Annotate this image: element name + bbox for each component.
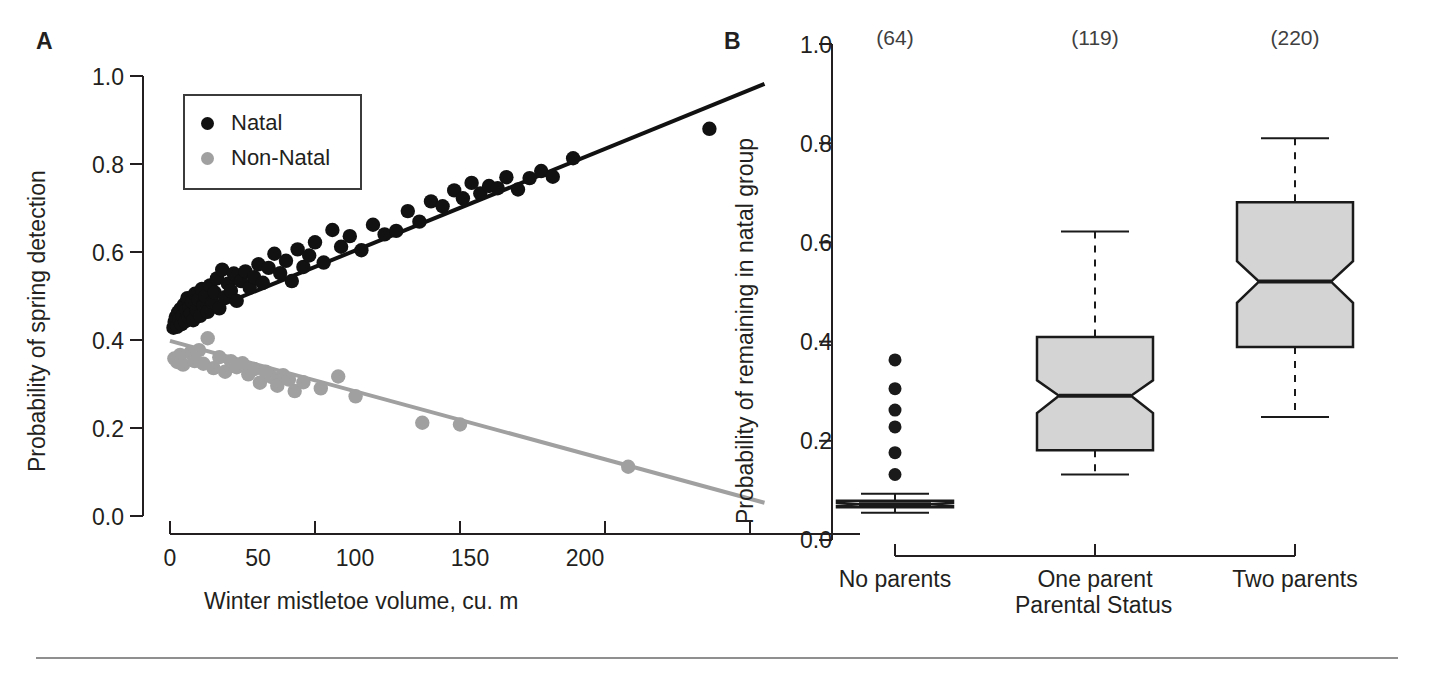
panel-a-data-point xyxy=(453,417,467,431)
category-label-no-parents: No parents xyxy=(825,566,965,593)
panel-a-data-point xyxy=(401,204,415,218)
panel-a-data-point xyxy=(389,224,403,238)
panel-a-data-point xyxy=(325,223,339,237)
legend-label-natal: Natal xyxy=(231,110,282,136)
box-one-parent xyxy=(1037,337,1153,450)
panel-a-data-point xyxy=(511,182,525,196)
legend-item-non-natal: Non-Natal xyxy=(201,143,330,173)
figure-bottom-rule xyxy=(36,657,1398,659)
panel-a-data-point xyxy=(348,389,362,403)
outlier-point-no-parents xyxy=(889,446,902,459)
panel-a-data-point xyxy=(412,214,426,228)
panel-a-data-point xyxy=(201,331,215,345)
outlier-point-no-parents xyxy=(889,468,902,481)
natal-marker-icon xyxy=(201,117,214,130)
outlier-point-no-parents xyxy=(889,353,902,366)
non-natal-marker-icon xyxy=(201,152,214,165)
outlier-point-no-parents xyxy=(889,382,902,395)
panel-a-scatter: A 1.0 0.8 0.6 0.4 0.2 0.0 Probability of… xyxy=(0,0,700,625)
panel-a-axes xyxy=(130,76,143,516)
panel-a-data-point xyxy=(314,381,328,395)
panel-a-data-point xyxy=(279,254,293,268)
panel-a-data-point xyxy=(415,416,429,430)
outlier-point-no-parents xyxy=(889,420,902,433)
box-two-parents xyxy=(1237,202,1353,347)
panel-a-data-point xyxy=(621,460,635,474)
boxplot-no-parents xyxy=(837,353,953,512)
outlier-point-no-parents xyxy=(889,404,902,417)
panel-b-x-axis-title: Parental Status xyxy=(1015,592,1172,619)
panel-a-data-point xyxy=(192,343,206,357)
panel-a-legend: Natal Non-Natal xyxy=(183,94,362,190)
panel-a-data-point xyxy=(354,243,368,257)
panel-b-axes xyxy=(819,44,832,540)
panel-b-boxplot: B 1.0 0.8 0.6 0.4 0.2 0.0 Probability of… xyxy=(700,0,1436,625)
panel-b-category-axis xyxy=(895,544,1295,556)
panel-a-data-point xyxy=(317,255,331,269)
panel-a-data-point xyxy=(366,218,380,232)
panel-a-data-point xyxy=(566,151,580,165)
category-label-two-parents: Two parents xyxy=(1225,566,1365,593)
panel-a-data-point xyxy=(256,276,270,290)
panel-a-data-point xyxy=(302,248,316,262)
legend-item-natal: Natal xyxy=(201,108,282,138)
panel-a-data-point xyxy=(308,235,322,249)
panel-a-data-point xyxy=(285,274,299,288)
panel-a-data-point xyxy=(296,375,310,389)
boxplot-one-parent xyxy=(1037,231,1153,474)
panel-a-data-point xyxy=(230,294,244,308)
panel-b-plot-area xyxy=(700,0,1436,625)
panel-a-data-point xyxy=(546,170,560,184)
panel-a-data-point xyxy=(456,191,470,205)
panel-a-series-non-natal xyxy=(167,308,764,503)
panel-a-data-point xyxy=(331,369,345,383)
figure-container: A 1.0 0.8 0.6 0.4 0.2 0.0 Probability of… xyxy=(0,0,1436,682)
category-label-one-parent: One parent xyxy=(1025,566,1165,593)
panel-a-data-point xyxy=(435,199,449,213)
panel-a-data-point xyxy=(343,229,357,243)
boxplot-two-parents xyxy=(1237,138,1353,417)
panel-a-data-point xyxy=(499,170,513,184)
legend-label-non-natal: Non-Natal xyxy=(231,145,330,171)
